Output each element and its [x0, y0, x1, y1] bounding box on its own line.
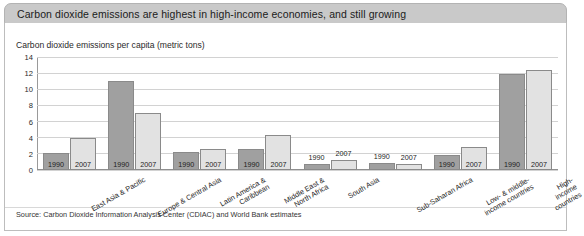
bar-year-label: 1990	[238, 160, 264, 169]
plot-area: 0246810121419902007199020071990200719902…	[37, 57, 558, 170]
bar-1990[interactable]	[499, 74, 525, 170]
y-axis-tick-label: 0	[29, 166, 33, 175]
bar-2007[interactable]	[526, 70, 552, 170]
bar-group: 19902007	[238, 57, 291, 170]
bar-year-label: 2007	[461, 160, 487, 169]
bar-group: 19902007	[499, 57, 552, 170]
bar-group: 19902007	[173, 57, 226, 170]
page-title: Carbon dioxide emissions are highest in …	[17, 8, 406, 20]
y-axis-tick-label: 12	[25, 69, 33, 78]
y-axis-tick-label: 2	[29, 149, 33, 158]
bar-year-label: 1990	[108, 160, 134, 169]
bar-year-label: 1990	[43, 160, 69, 169]
y-axis-tick-label: 10	[25, 85, 33, 94]
bar-year-label: 1990	[304, 153, 330, 162]
bar-group: 19902007	[434, 57, 487, 170]
bar-year-label: 2007	[265, 160, 291, 169]
bar-year-label: 2007	[526, 160, 552, 169]
bar-year-label: 1990	[173, 160, 199, 169]
bar-year-label: 1990	[434, 160, 460, 169]
y-axis-tick-label: 6	[29, 117, 33, 126]
bar-year-label: 2007	[396, 153, 422, 162]
bar-year-label: 2007	[135, 160, 161, 169]
bar-1990[interactable]	[369, 163, 395, 170]
bar-2007[interactable]	[396, 164, 422, 170]
y-axis-tick-label: 4	[29, 133, 33, 142]
bar-group: 19902007	[304, 57, 357, 170]
y-axis-tick-label: 8	[29, 101, 33, 110]
chart-subtitle: Carbon dioxide emissions per capita (met…	[16, 40, 205, 50]
y-axis-tick-label: 14	[25, 53, 33, 62]
bar-year-label: 2007	[70, 160, 96, 169]
bar-1990[interactable]	[108, 81, 134, 170]
bar-group: 19902007	[108, 57, 161, 170]
bar-2007[interactable]	[331, 160, 357, 170]
bar-1990[interactable]	[304, 164, 330, 170]
bar-group: 19902007	[369, 57, 422, 170]
bar-year-label: 1990	[369, 152, 395, 161]
bar-year-label: 2007	[331, 149, 357, 158]
bar-group: 19902007	[43, 57, 96, 170]
bar-year-label: 2007	[200, 160, 226, 169]
bar-year-label: 1990	[499, 160, 525, 169]
